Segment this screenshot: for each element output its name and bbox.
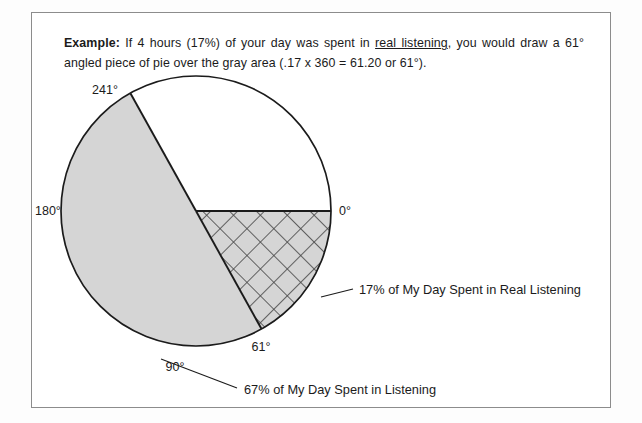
angle-label-61: 61°: [252, 340, 271, 354]
pie-diagram: 241° 180° 0° 61° 90° 17% of My Day Spent…: [32, 13, 612, 409]
angle-label-180: 180°: [35, 204, 61, 218]
angle-label-241: 241°: [92, 83, 118, 97]
page-canvas: Example: If 4 hours (17%) of your day wa…: [0, 0, 642, 423]
angle-label-0: 0°: [339, 204, 351, 218]
callout-listening: 67% of My Day Spent in Listening: [244, 382, 436, 397]
content-frame: Example: If 4 hours (17%) of your day wa…: [31, 12, 611, 408]
callout-real-listening: 17% of My Day Spent in Real Listening: [359, 282, 581, 297]
leader-line-real-listening: [321, 289, 353, 297]
